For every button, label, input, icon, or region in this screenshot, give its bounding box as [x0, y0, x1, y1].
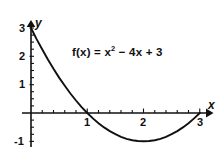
x-tick-label-2: 2 — [140, 117, 146, 128]
graph-figure: f(x) = x2 − 4x + 3 y x 1 2 3 3 2 1 -1 — [0, 0, 219, 152]
equation-rhs: − 4x + 3 — [115, 46, 162, 58]
y-tick-label-3: 3 — [19, 23, 25, 34]
y-tick-label-neg1: -1 — [14, 136, 24, 147]
plot-canvas — [0, 0, 219, 152]
y-tick-label-1: 1 — [19, 79, 25, 90]
y-axis-label: y — [35, 17, 42, 29]
x-tick-label-1: 1 — [84, 117, 90, 128]
parabola-curve — [31, 28, 200, 141]
equation-lhs: f(x) = x — [72, 46, 111, 58]
x-axis-label: x — [208, 99, 215, 111]
equation-annotation: f(x) = x2 − 4x + 3 — [72, 47, 163, 59]
x-tick-label-3: 3 — [197, 117, 203, 128]
y-tick-label-2: 2 — [19, 51, 25, 62]
